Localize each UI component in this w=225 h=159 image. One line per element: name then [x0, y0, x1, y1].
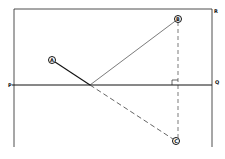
reflection-diagram: A B C P Q R: [0, 0, 225, 159]
point-c-label: C: [174, 138, 178, 144]
point-c: C: [173, 138, 180, 145]
point-b-label: B: [176, 16, 180, 22]
label-r: R: [214, 8, 218, 14]
reflected-ray: [90, 19, 178, 85]
right-angle-mark: [172, 80, 178, 85]
point-b: B: [175, 16, 182, 23]
virtual-ray: [90, 85, 176, 141]
point-a: A: [49, 57, 56, 64]
point-a-label: A: [50, 57, 54, 63]
label-q: Q: [215, 79, 219, 85]
frame: [14, 9, 212, 147]
label-p: P: [8, 82, 12, 88]
incident-ray: [52, 60, 90, 85]
